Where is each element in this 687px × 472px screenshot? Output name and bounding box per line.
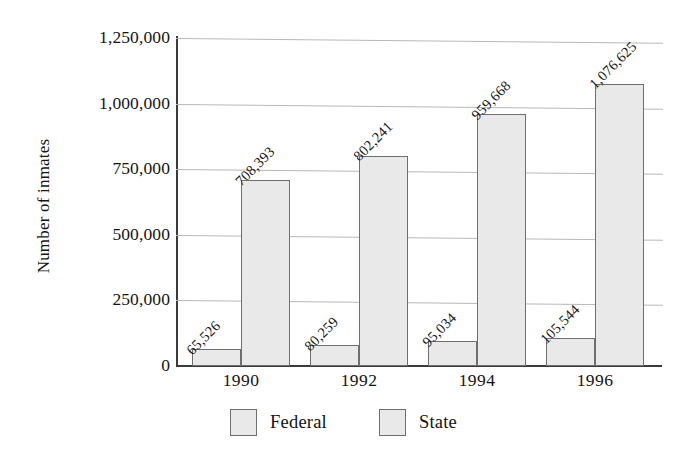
y-tick-label: 1,000,000 bbox=[52, 95, 170, 113]
chart-legend: FederalState bbox=[0, 409, 687, 436]
gridline bbox=[176, 38, 663, 44]
y-tick-label: 0 bbox=[52, 357, 170, 375]
plot-area: 65,526708,39380,259802,24195,034959,6681… bbox=[176, 38, 662, 366]
bar-chart: Number of inmates 0250,000500,000750,000… bbox=[0, 0, 687, 472]
bar-state-1994 bbox=[477, 114, 526, 366]
gridline bbox=[176, 104, 663, 110]
y-tick-label: 500,000 bbox=[52, 226, 170, 244]
bar-state-1992 bbox=[359, 156, 408, 367]
x-tick-label-1990: 1990 bbox=[181, 372, 301, 390]
bar-state-1996 bbox=[595, 84, 644, 367]
legend-label-state: State bbox=[419, 413, 457, 432]
y-axis-tick-labels: 0250,000500,000750,0001,000,0001,250,000 bbox=[50, 0, 170, 472]
y-tick-label: 750,000 bbox=[52, 160, 170, 178]
legend-swatch-state bbox=[379, 409, 406, 436]
legend-entry-federal: Federal bbox=[230, 409, 327, 436]
legend-entry-state: State bbox=[379, 409, 457, 436]
bar-federal-1996 bbox=[546, 338, 595, 366]
legend-label-federal: Federal bbox=[270, 413, 327, 432]
x-tick-label-1996: 1996 bbox=[535, 372, 655, 390]
y-tick-label: 250,000 bbox=[52, 291, 170, 309]
legend-swatch-federal bbox=[230, 409, 257, 436]
x-tick-label-1992: 1992 bbox=[299, 372, 419, 390]
y-tick-label: 1,250,000 bbox=[52, 29, 170, 47]
x-tick-label-1994: 1994 bbox=[417, 372, 537, 390]
bar-state-1990 bbox=[241, 180, 290, 366]
